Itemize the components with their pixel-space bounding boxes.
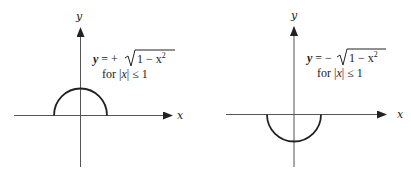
panel-lower-semicircle: x y y = − 1 − x2 for |x| ≤ 1 <box>226 9 404 167</box>
domain-condition-lower: for |x| ≤ 1 <box>317 66 363 80</box>
y-axis-label: y <box>290 9 298 22</box>
semicircle-diagrams: x y y = + 1 − x2 for |x| ≤ 1 x y y = − 1… <box>0 0 411 173</box>
x-axis-label: x <box>177 109 184 122</box>
y-axis-label: y <box>75 10 83 23</box>
equation-upper: y = + <box>91 52 118 66</box>
domain-condition-upper: for |x| ≤ 1 <box>102 67 148 81</box>
panel-upper-semicircle: x y y = + 1 − x2 for |x| ≤ 1 <box>14 10 184 167</box>
radicand: 1 − x2 <box>137 51 166 66</box>
equation-lower: y = − <box>305 51 332 65</box>
radicand: 1 − x2 <box>349 50 378 65</box>
x-axis-label: x <box>397 108 404 121</box>
